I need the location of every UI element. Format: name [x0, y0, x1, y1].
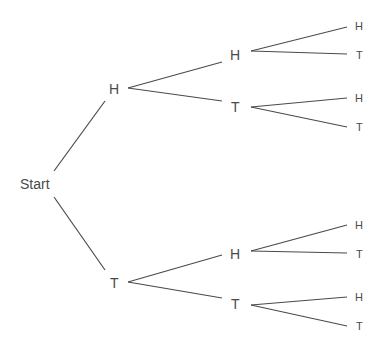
node-l3-ttt: T — [356, 320, 363, 332]
node-l2-tt: T — [231, 296, 240, 312]
edge-ht-h — [251, 98, 347, 107]
edge-th-t — [251, 251, 347, 253]
node-l3-tht: T — [356, 248, 363, 260]
edge-hh-h — [251, 27, 347, 51]
node-l3-htt: T — [356, 121, 363, 133]
node-l3-tth: H — [355, 291, 363, 303]
tree-diagram: Start H T H T H T H T H T H T H T — [0, 0, 384, 350]
node-l2-ht: T — [231, 99, 240, 115]
edge-tt-t — [251, 305, 347, 326]
edges-level1 — [128, 62, 222, 298]
edges-root — [54, 101, 105, 270]
edge-tt-h — [251, 297, 347, 305]
edge-ht-t — [251, 107, 347, 127]
node-l2-th: H — [230, 246, 240, 262]
node-l3-hht: T — [356, 49, 363, 61]
node-start: Start — [20, 176, 50, 192]
edge-t-t — [128, 282, 222, 298]
edge-h-t — [128, 88, 222, 101]
edge-t-h — [128, 255, 222, 282]
node-l2-hh: H — [230, 47, 240, 63]
edge-hh-t — [251, 51, 347, 54]
edge-start-t — [54, 197, 105, 270]
edge-start-h — [54, 101, 105, 171]
edges-level2 — [251, 27, 347, 326]
edge-th-h — [251, 225, 347, 251]
node-l1-t: T — [110, 275, 119, 291]
node-l1-h: H — [109, 81, 119, 97]
node-l3-thh: H — [355, 219, 363, 231]
node-l3-hth: H — [355, 92, 363, 104]
node-l3-hhh: H — [355, 20, 363, 32]
edge-h-h — [128, 62, 222, 88]
